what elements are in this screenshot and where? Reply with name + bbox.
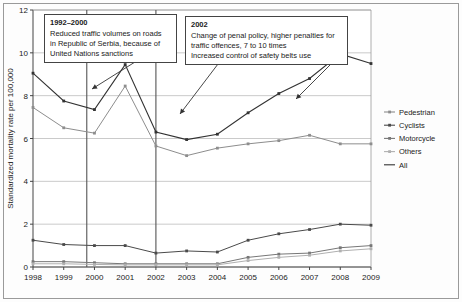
legend-marker-pedestrian	[388, 111, 391, 114]
xtick-label-2002: 2002	[147, 273, 165, 282]
series-marker-all-1999	[62, 100, 65, 103]
ytick-label-4: 4	[24, 177, 29, 186]
legend-label-all: All	[399, 161, 408, 170]
xtick-label-2007: 2007	[301, 273, 319, 282]
series-marker-others-2000	[93, 263, 96, 266]
legend-marker-cyclists	[388, 124, 391, 127]
series-marker-others-2009	[370, 247, 373, 250]
ytick-label-2: 2	[24, 220, 29, 229]
xtick-label-1999: 1999	[55, 273, 73, 282]
series-marker-all-2009	[370, 62, 373, 65]
xtick-label-2004: 2004	[208, 273, 226, 282]
legend-label-pedestrian: Pedestrian	[399, 108, 435, 117]
annotation-2002-line-1: Change of penal policy, higher penalties…	[191, 31, 343, 41]
series-marker-cyclists-2004	[216, 251, 219, 254]
xtick-label-2009: 2009	[362, 273, 380, 282]
series-marker-others-1999	[62, 262, 65, 265]
annotation-1992-line-3: United Nations sanctions	[50, 49, 172, 59]
series-marker-others-1998	[32, 262, 35, 265]
series-marker-cyclists-2009	[370, 224, 373, 227]
annotation-1992-line-1: Reduced traffic volumes on roads	[50, 29, 172, 39]
annotation-1992-2000: 1992–2000 Reduced traffic volumes on roa…	[44, 14, 177, 63]
xtick-label-2008: 2008	[331, 273, 349, 282]
series-marker-all-2006	[277, 92, 280, 95]
xtick-label-2001: 2001	[116, 273, 134, 282]
ytick-label-10: 10	[19, 49, 28, 58]
series-marker-cyclists-2000	[93, 244, 96, 247]
series-marker-others-2006	[277, 256, 280, 259]
series-marker-pedestrian-2009	[370, 142, 373, 145]
series-marker-motorcycle-2005	[247, 256, 250, 259]
series-marker-motorcycle-2009	[370, 244, 373, 247]
annotation-2002-line-2: traffic offences, 7 to 10 times	[191, 41, 343, 51]
series-marker-all-2005	[247, 111, 250, 114]
xtick-label-2006: 2006	[270, 273, 288, 282]
annotation-1992-title: 1992–2000	[50, 18, 172, 28]
series-marker-pedestrian-1999	[62, 126, 65, 129]
legend-label-others: Others	[399, 147, 422, 156]
series-marker-all-2000	[93, 108, 96, 111]
xtick-label-2005: 2005	[239, 273, 257, 282]
legend-marker-motorcycle	[388, 137, 391, 140]
series-marker-pedestrian-2007	[308, 134, 311, 137]
series-marker-others-2002	[155, 263, 158, 266]
series-marker-cyclists-2005	[247, 239, 250, 242]
annotation-2002-line-3: Increased control of safety belts use	[191, 51, 343, 61]
series-marker-motorcycle-2006	[277, 253, 280, 256]
series-marker-pedestrian-2005	[247, 142, 250, 145]
series-marker-others-2008	[339, 250, 342, 253]
xtick-label-2000: 2000	[86, 273, 104, 282]
series-marker-cyclists-2002	[155, 252, 158, 255]
series-marker-pedestrian-2000	[93, 132, 96, 135]
series-marker-pedestrian-2001	[124, 85, 127, 88]
series-marker-cyclists-1998	[32, 239, 35, 242]
chart-figure: 0246810121998199920002001200220032004200…	[0, 0, 462, 302]
series-marker-all-2004	[216, 133, 219, 136]
xtick-label-1998: 1998	[24, 273, 42, 282]
annotation-2002-title: 2002	[191, 20, 343, 30]
series-marker-pedestrian-2003	[185, 154, 188, 157]
series-marker-pedestrian-1998	[32, 106, 35, 109]
series-marker-all-2001	[124, 63, 127, 66]
series-marker-others-2001	[124, 263, 127, 266]
ytick-label-12: 12	[19, 6, 28, 15]
series-marker-others-2003	[185, 263, 188, 266]
series-marker-all-2002	[155, 131, 158, 134]
series-marker-others-2007	[308, 254, 311, 257]
series-marker-others-2004	[216, 263, 219, 266]
series-marker-cyclists-2003	[185, 250, 188, 253]
series-marker-all-2007	[308, 77, 311, 80]
annotation-1992-line-2: in Republic of Serbia, because of	[50, 39, 172, 49]
series-marker-cyclists-2008	[339, 223, 342, 226]
series-marker-all-2003	[185, 138, 188, 141]
series-marker-pedestrian-2002	[155, 145, 158, 148]
series-marker-all-1998	[32, 72, 35, 75]
legend-label-cyclists: Cyclists	[399, 121, 425, 130]
series-marker-cyclists-1999	[62, 243, 65, 246]
series-marker-cyclists-2001	[124, 244, 127, 247]
series-marker-cyclists-2007	[308, 228, 311, 231]
y-axis-label: Standardized mortality rate per 100,000	[6, 68, 15, 209]
series-marker-pedestrian-2006	[277, 139, 280, 142]
xtick-label-2003: 2003	[178, 273, 196, 282]
legend-label-motorcycle: Motorcycle	[399, 134, 435, 143]
legend-marker-others	[388, 150, 391, 153]
series-marker-pedestrian-2004	[216, 147, 219, 150]
series-marker-cyclists-2006	[277, 232, 280, 235]
ytick-label-6: 6	[24, 135, 29, 144]
series-marker-motorcycle-2008	[339, 246, 342, 249]
annotation-2002: 2002 Change of penal policy, higher pena…	[185, 16, 348, 65]
ytick-label-8: 8	[24, 92, 29, 101]
series-marker-others-2005	[247, 259, 250, 262]
ytick-label-0: 0	[24, 263, 29, 272]
series-marker-pedestrian-2008	[339, 142, 342, 145]
